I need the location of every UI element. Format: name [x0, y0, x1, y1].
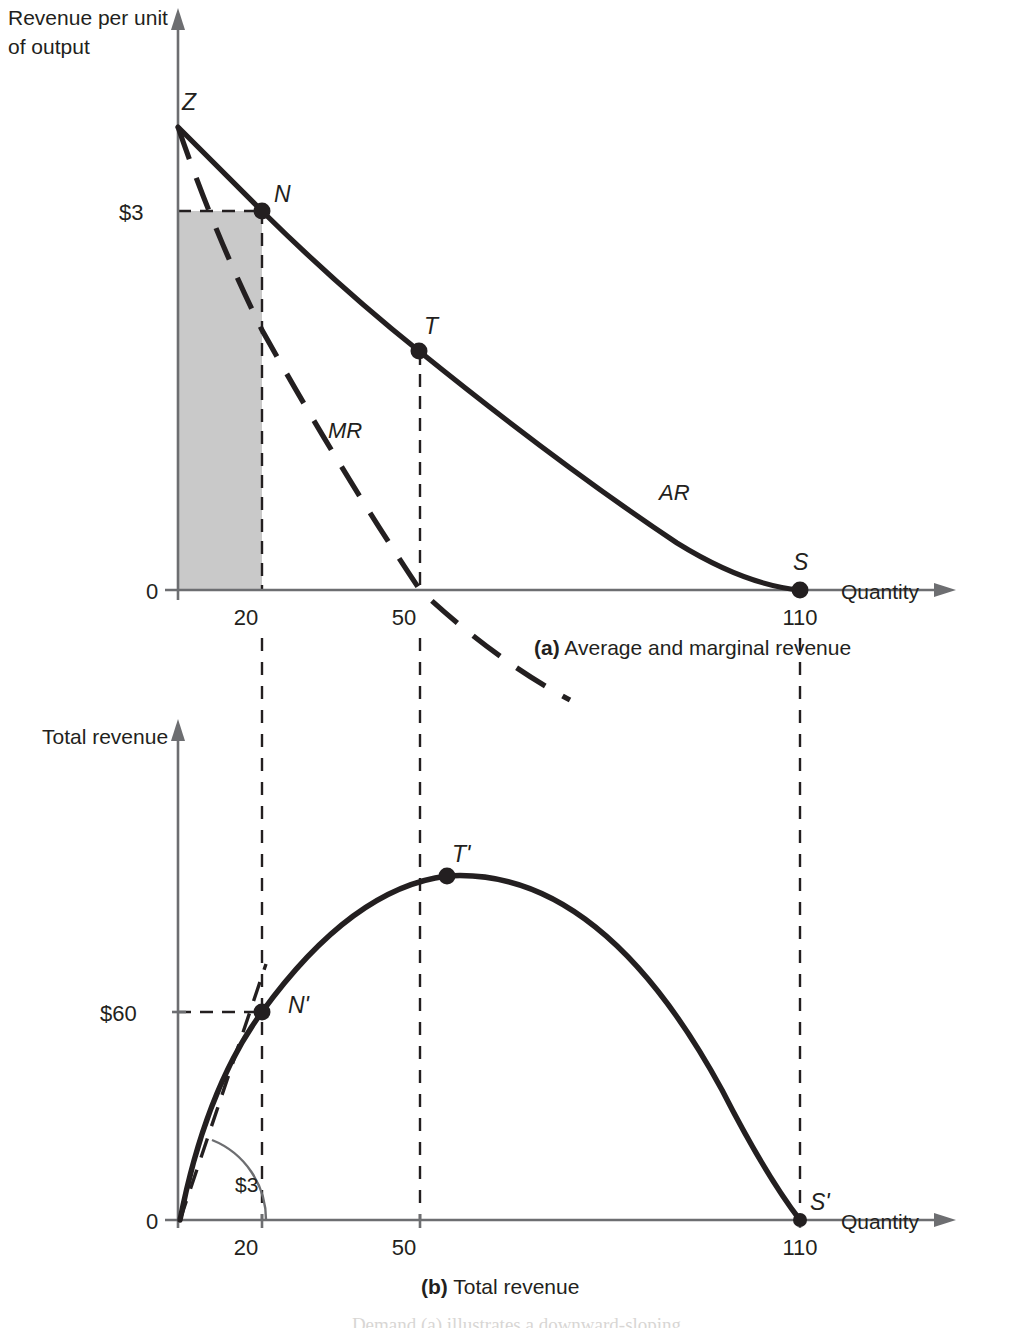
panel-b-x-axis-arrowhead: [934, 1213, 956, 1227]
panel-b-caption: (b) Total revenue: [421, 1275, 579, 1298]
economics-figure: Revenue per unit of output 0 $3 20 50 11…: [0, 0, 1033, 1328]
panel-b-origin-label: 0: [146, 1209, 158, 1234]
curve-label-ar: AR: [657, 480, 690, 505]
panel-a-x-tick-50: 50: [392, 605, 416, 630]
panel-b-x-tick-50: 50: [392, 1235, 416, 1260]
total-revenue-curve: [180, 876, 800, 1220]
point-label-z: Z: [181, 89, 197, 115]
point-marker-t: [411, 343, 428, 360]
panel-b-group: Total revenue 0 $60 20 50 110 Quantity N…: [42, 719, 956, 1298]
slope-annotation-label: $3: [235, 1173, 258, 1196]
panel-b-y-tick-60: $60: [100, 1001, 137, 1026]
panel-a-caption: (a) Average and marginal revenue: [534, 636, 851, 659]
point-marker-s-prime: [793, 1213, 807, 1227]
point-marker-s: [792, 582, 809, 599]
figure-canvas: Revenue per unit of output 0 $3 20 50 11…: [0, 0, 1033, 1328]
panel-b-y-axis-label: Total revenue: [42, 725, 168, 748]
panel-a-y-axis-arrowhead: [171, 8, 185, 30]
panel-a-origin-label: 0: [146, 579, 158, 604]
point-marker-n: [254, 203, 271, 220]
panel-b-caption-text: Total revenue: [453, 1275, 579, 1298]
panel-a-y-tick-3: $3: [119, 200, 143, 225]
inter-panel-connectors: [262, 638, 800, 1220]
average-revenue-curve: [178, 127, 800, 590]
panel-a-x-axis-arrowhead: [934, 583, 956, 597]
panel-a-y-axis-label-line2: of output: [8, 35, 90, 58]
panel-a-caption-letter: (a): [534, 636, 560, 659]
point-label-t-prime: T': [452, 841, 472, 867]
panel-b-y-axis-arrowhead: [171, 719, 185, 741]
point-label-n: N: [274, 181, 291, 207]
panel-b-x-tick-110: 110: [782, 1235, 817, 1260]
panel-a-x-axis-label: Quantity: [841, 580, 920, 603]
panel-a-group: Revenue per unit of output 0 $3 20 50 11…: [8, 6, 956, 700]
point-label-t: T: [424, 313, 440, 339]
curve-label-mr: MR: [328, 418, 362, 443]
panel-a-x-tick-20: 20: [234, 605, 258, 630]
point-label-s-prime: S': [810, 1189, 831, 1215]
panel-a-y-axis-label-line1: Revenue per unit: [8, 6, 168, 29]
point-label-n-prime: N': [288, 992, 311, 1018]
panel-b-caption-letter: (b): [421, 1275, 448, 1298]
point-marker-t-prime: [439, 868, 456, 885]
panel-a-caption-text: Average and marginal revenue: [564, 636, 851, 659]
revenue-rectangle-shading: [178, 211, 262, 590]
point-label-s: S: [793, 549, 809, 575]
cut-off-footer-text: Demand (a) illustrates a downward-slopin…: [0, 1314, 1033, 1328]
panel-b-x-tick-20: 20: [234, 1235, 258, 1260]
panel-b-x-axis-label: Quantity: [841, 1210, 920, 1233]
point-marker-n-prime: [254, 1004, 271, 1021]
panel-a-x-tick-110: 110: [782, 605, 817, 630]
